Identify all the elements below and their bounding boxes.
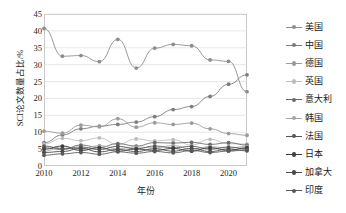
series-line <box>44 29 247 92</box>
data-point <box>171 108 175 112</box>
data-point <box>97 136 101 140</box>
legend-item-0[interactable]: 美国 <box>286 18 344 36</box>
series-layer <box>42 27 249 157</box>
legend-label: 美国 <box>305 23 323 32</box>
data-point <box>97 146 101 150</box>
legend-marker-icon <box>286 77 302 86</box>
data-point <box>116 150 120 154</box>
data-point <box>245 73 249 77</box>
data-point <box>208 95 212 99</box>
x-tick-label: 2016 <box>146 168 163 178</box>
data-point <box>190 140 194 144</box>
legend-marker-icon <box>286 168 302 177</box>
data-point <box>245 90 249 94</box>
x-tick-label: 2018 <box>183 168 200 178</box>
legend-label: 德国 <box>305 59 323 68</box>
legend-item-1[interactable]: 中国 <box>286 36 344 54</box>
legend-item-4[interactable]: 意大利 <box>286 91 344 109</box>
data-point <box>134 66 138 70</box>
data-point <box>134 120 138 124</box>
legend-label: 法国 <box>305 132 323 141</box>
legend-dot-icon <box>292 189 296 193</box>
data-point <box>42 27 46 31</box>
legend-marker-icon <box>286 186 302 195</box>
legend-dot-icon <box>292 152 296 156</box>
data-point <box>61 136 65 140</box>
data-point <box>42 129 46 133</box>
x-tick-label: 2012 <box>72 168 89 178</box>
data-point <box>153 115 157 119</box>
legend-item-3[interactable]: 英国 <box>286 73 344 91</box>
gridlines <box>44 14 247 149</box>
data-point <box>171 138 175 142</box>
legend-label: 意大利 <box>305 95 332 104</box>
data-point <box>42 147 46 151</box>
data-point <box>208 127 212 131</box>
data-point <box>227 132 231 136</box>
legend-label: 印度 <box>305 186 323 195</box>
data-point <box>134 151 138 155</box>
data-point <box>153 150 157 154</box>
x-tick-label: 2014 <box>109 168 126 178</box>
legend-dot-icon <box>292 43 296 47</box>
data-point <box>208 58 212 62</box>
legend-item-6[interactable]: 法国 <box>286 127 344 145</box>
legend-dot-icon <box>292 25 296 29</box>
legend-marker-icon <box>286 95 302 104</box>
data-point <box>79 147 83 151</box>
data-point <box>208 151 212 155</box>
data-point <box>97 152 101 156</box>
data-point <box>245 133 249 137</box>
legend-item-5[interactable]: 韩国 <box>286 109 344 127</box>
data-point <box>134 137 138 141</box>
series-line <box>44 119 247 136</box>
data-point <box>153 141 157 145</box>
legend-item-9[interactable]: 印度 <box>286 182 344 200</box>
data-point <box>79 54 83 58</box>
series-1 <box>42 73 249 145</box>
x-axis-ticks: 201020122014201620182020 <box>44 168 247 180</box>
legend-item-8[interactable]: 加拿大 <box>286 164 344 182</box>
legend-marker-icon <box>286 41 302 50</box>
data-point <box>227 141 231 145</box>
legend-marker-icon <box>286 23 302 32</box>
legend-label: 英国 <box>305 77 323 86</box>
legend-dot-icon <box>292 116 296 120</box>
data-point <box>171 123 175 127</box>
chart-legend: 美国中国德国英国意大利韩国法国日本加拿大印度 <box>286 18 344 200</box>
legend-item-2[interactable]: 德国 <box>286 54 344 72</box>
data-point <box>61 54 65 58</box>
series-3 <box>42 136 249 147</box>
data-point <box>208 146 212 150</box>
data-point <box>171 43 175 47</box>
data-point <box>116 117 120 121</box>
legend-dot-icon <box>292 61 296 65</box>
legend-item-7[interactable]: 日本 <box>286 145 344 163</box>
legend-label: 韩国 <box>305 114 323 123</box>
legend-dot-icon <box>292 98 296 102</box>
legend-marker-icon <box>286 132 302 141</box>
legend-marker-icon <box>286 150 302 159</box>
chart-container: SCI论文数量占比/% 051015202530354045 201020122… <box>0 0 346 213</box>
x-axis-title: 年份 <box>44 184 247 197</box>
data-point <box>153 121 157 125</box>
data-point <box>153 46 157 50</box>
data-point <box>97 125 101 129</box>
data-point <box>79 151 83 155</box>
data-point <box>190 121 194 125</box>
x-tick-label: 2010 <box>36 168 53 178</box>
data-point <box>245 148 249 152</box>
data-point <box>190 105 194 109</box>
data-point <box>227 149 231 153</box>
legend-label: 加拿大 <box>305 168 332 177</box>
legend-marker-icon <box>286 114 302 123</box>
data-point <box>171 151 175 155</box>
data-point <box>97 60 101 64</box>
data-point <box>134 125 138 129</box>
data-point <box>79 127 83 131</box>
x-tick-label: 2020 <box>220 168 237 178</box>
data-point <box>79 123 83 127</box>
data-point <box>190 149 194 153</box>
data-point <box>190 44 194 48</box>
data-point <box>116 37 120 41</box>
